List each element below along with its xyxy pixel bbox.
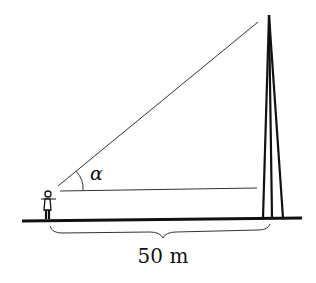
angle-of-elevation-diagram: α 50 m: [0, 0, 316, 283]
distance-brace: [50, 224, 270, 238]
angle-label: α: [90, 162, 103, 184]
distance-label: 50 m: [138, 244, 189, 268]
person-figure: [41, 191, 56, 219]
line-of-sight: [58, 22, 258, 186]
horizontal-line: [60, 188, 257, 191]
angle-arc: [76, 171, 83, 190]
tower: [263, 15, 283, 218]
ground-line: [22, 218, 302, 221]
